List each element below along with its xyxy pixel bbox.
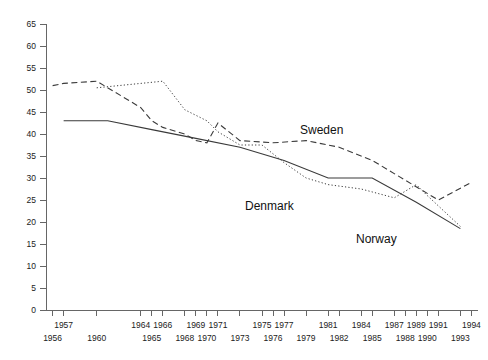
y-tick-label: 30	[27, 173, 37, 183]
x-tick-label: 1977	[275, 320, 294, 330]
y-tick-label: 0	[31, 305, 36, 315]
x-tick-label: 1976	[264, 333, 283, 343]
y-tick-label: 25	[27, 195, 37, 205]
x-tick-label: 1994	[462, 320, 481, 330]
x-tick-label: 1991	[429, 320, 448, 330]
x-tick-label: 1979	[297, 333, 316, 343]
x-tick-label: 1966	[153, 320, 172, 330]
y-tick-label: 45	[27, 107, 37, 117]
y-tick-label: 10	[27, 261, 37, 271]
x-tick-label: 1973	[230, 333, 249, 343]
line-chart: 05101520253035404550556065 1956195719601…	[0, 0, 488, 360]
y-tick-label: 35	[27, 151, 37, 161]
x-tick-label: 1968	[175, 333, 194, 343]
x-tick-group: 1956195719601964196519661968196919701971…	[43, 310, 481, 343]
x-tick-label: 1975	[253, 320, 272, 330]
x-tick-label: 1956	[43, 333, 62, 343]
series-line-sweden	[53, 81, 472, 200]
x-tick-label: 1981	[319, 320, 338, 330]
x-tick-label: 1993	[451, 333, 470, 343]
x-tick-label: 1970	[197, 333, 216, 343]
x-tick-label: 1982	[330, 333, 349, 343]
x-tick-label: 1988	[396, 333, 415, 343]
chart-canvas: 05101520253035404550556065 1956195719601…	[0, 0, 488, 360]
y-tick-label: 65	[27, 19, 37, 29]
x-axis: 1956195719601964196519661968196919701971…	[43, 310, 481, 343]
y-tick-label: 20	[27, 217, 37, 227]
x-tick-label: 1985	[363, 333, 382, 343]
series-label-denmark: Denmark	[245, 199, 295, 213]
y-tick-label: 60	[27, 41, 37, 51]
series-label-norway: Norway	[356, 232, 397, 246]
x-tick-label: 1984	[352, 320, 371, 330]
y-tick-group: 05101520253035404550556065	[27, 19, 46, 315]
x-tick-label: 1965	[142, 333, 161, 343]
x-tick-label: 1987	[385, 320, 404, 330]
y-tick-label: 55	[27, 63, 37, 73]
x-tick-label: 1971	[208, 320, 227, 330]
x-tick-label: 1964	[131, 320, 150, 330]
x-tick-label: 1990	[418, 333, 437, 343]
series-label-sweden: Sweden	[300, 123, 343, 137]
y-tick-label: 15	[27, 239, 37, 249]
x-tick-label: 1969	[186, 320, 205, 330]
series-label-group: SwedenDenmarkNorway	[245, 123, 397, 246]
y-tick-label: 50	[27, 85, 37, 95]
x-tick-label: 1957	[54, 320, 73, 330]
y-tick-label: 5	[31, 283, 36, 293]
x-tick-label: 1989	[407, 320, 426, 330]
y-tick-label: 40	[27, 129, 37, 139]
x-tick-label: 1960	[87, 333, 106, 343]
y-axis: 05101520253035404550556065	[27, 19, 46, 315]
